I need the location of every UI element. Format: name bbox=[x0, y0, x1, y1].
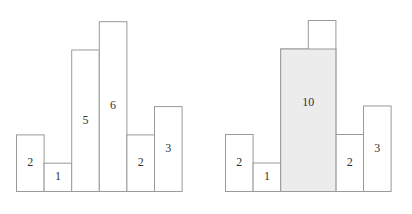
bar-value-label: 2 bbox=[27, 155, 33, 169]
bar-value-label: 2 bbox=[236, 155, 242, 169]
bar-value-label: 3 bbox=[374, 141, 380, 155]
bar-value-label: 1 bbox=[264, 169, 270, 183]
histogram-diagram: 215623 102123 bbox=[0, 0, 412, 214]
right-histogram-max-rectangle: 102123 bbox=[226, 21, 392, 192]
max-area-label: 10 bbox=[302, 95, 314, 109]
bar-value-label: 1 bbox=[55, 169, 61, 183]
bar-value-label: 2 bbox=[347, 155, 353, 169]
bar-value-label: 3 bbox=[165, 141, 171, 155]
bar-value-label: 2 bbox=[138, 155, 144, 169]
bar-value-label: 5 bbox=[83, 113, 89, 127]
max-area-rectangle bbox=[281, 49, 336, 192]
left-histogram: 215623 bbox=[17, 22, 183, 192]
bar-value-label: 6 bbox=[110, 98, 116, 112]
